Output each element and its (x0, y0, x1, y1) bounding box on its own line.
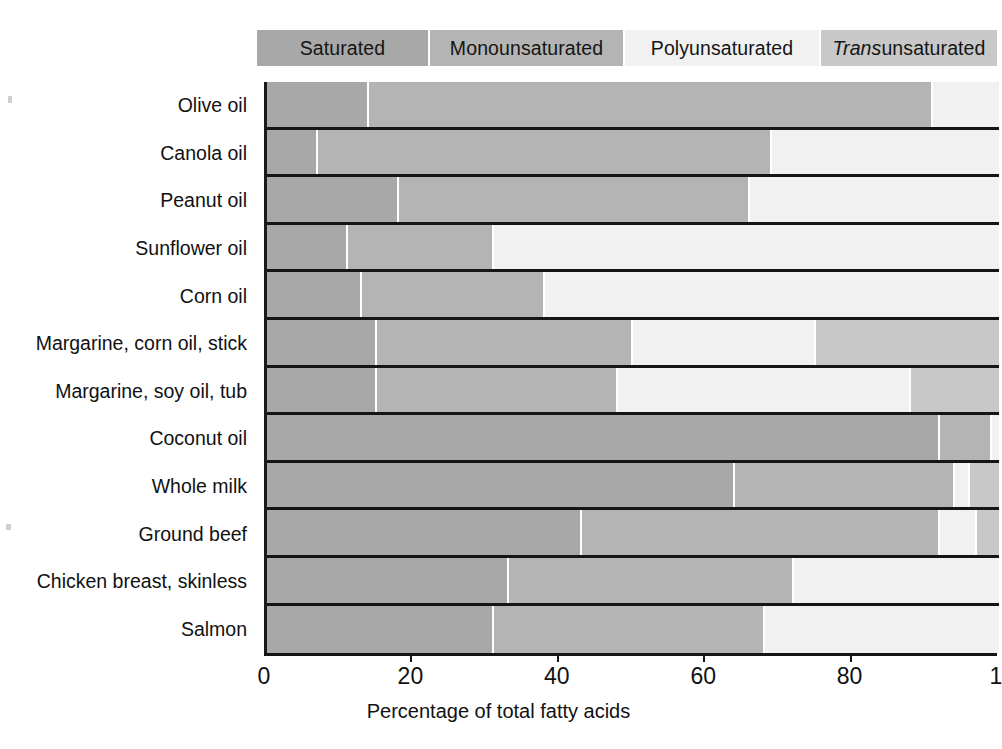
bar-segment-polyunsaturated (633, 320, 816, 365)
category-label-9: Whole milk (0, 463, 256, 511)
bar-segment-saturated (267, 558, 509, 603)
bar-segment-polyunsaturated (494, 225, 999, 270)
x-tick-60 (703, 653, 705, 662)
bar-segment-monounsaturated (735, 463, 955, 508)
chart-legend: SaturatedMonounsaturatedPolyunsaturatedT… (257, 30, 997, 66)
bar-row (267, 177, 999, 225)
bar-segment-polyunsaturated (940, 510, 977, 555)
category-label-11: Chicken breast, skinless (0, 558, 256, 606)
bar-row (267, 463, 999, 511)
bar-row (267, 558, 999, 606)
legend-label-rest: unsaturated (881, 37, 985, 60)
x-tick-80 (850, 653, 852, 662)
x-tick-label-80: 80 (837, 663, 863, 690)
bar-segment-polyunsaturated (955, 463, 970, 508)
bar-segment-saturated (267, 510, 582, 555)
bar-segment-polyunsaturated (750, 177, 999, 222)
legend-label-italic: Trans (832, 37, 881, 60)
bar-segment-monounsaturated (362, 272, 545, 317)
bar-segment-saturated (267, 415, 940, 460)
bar-row (267, 606, 999, 654)
x-tick-20 (410, 653, 412, 662)
category-label-12: Salmon (0, 606, 256, 654)
category-label-5: Corn oil (0, 272, 256, 320)
bar-segment-monounsaturated (377, 320, 633, 365)
x-tick-label-20: 20 (398, 663, 424, 690)
bar-segment-monounsaturated (509, 558, 794, 603)
bar-segment-trans (970, 463, 999, 508)
legend-label: Saturated (300, 37, 385, 60)
x-axis-title: Percentage of total fatty acids (0, 700, 997, 723)
category-label-4: Sunflower oil (0, 225, 256, 273)
bar-row (267, 510, 999, 558)
legend-item-1: Saturated (257, 30, 430, 66)
bar-row (267, 225, 999, 273)
bar-row (267, 82, 999, 130)
category-label-8: Coconut oil (0, 415, 256, 463)
category-label-6: Margarine, corn oil, stick (0, 320, 256, 368)
bar-segment-polyunsaturated (992, 415, 999, 460)
legend-label: Monounsaturated (450, 37, 603, 60)
x-tick-label-40: 40 (544, 663, 570, 690)
category-axis-labels: Olive oilCanola oilPeanut oilSunflower o… (0, 82, 256, 653)
bar-segment-saturated (267, 463, 735, 508)
bar-segment-monounsaturated (940, 415, 991, 460)
plot-area (264, 82, 999, 653)
bar-segment-polyunsaturated (545, 272, 999, 317)
bar-segment-monounsaturated (348, 225, 494, 270)
bar-segment-saturated (267, 320, 377, 365)
bar-segment-monounsaturated (494, 606, 765, 654)
x-tick-label-1: 1 (990, 663, 1002, 690)
x-axis-line (264, 653, 997, 656)
bar-segment-monounsaturated (399, 177, 750, 222)
x-tick-label-0: 0 (258, 663, 271, 690)
bar-segment-trans (977, 510, 999, 555)
legend-item-3: Polyunsaturated (625, 30, 821, 66)
bar-row (267, 272, 999, 320)
bar-segment-monounsaturated (318, 130, 772, 175)
legend-label: Polyunsaturated (651, 37, 793, 60)
bar-segment-saturated (267, 606, 494, 654)
bar-segment-monounsaturated (369, 82, 933, 127)
bar-segment-saturated (267, 82, 369, 127)
bar-row (267, 415, 999, 463)
bar-segment-saturated (267, 368, 377, 413)
bar-row (267, 368, 999, 416)
bar-segment-trans (816, 320, 999, 365)
bar-segment-saturated (267, 225, 348, 270)
bar-segment-trans (911, 368, 999, 413)
category-label-10: Ground beef (0, 510, 256, 558)
bar-segment-polyunsaturated (772, 130, 999, 175)
legend-item-2: Monounsaturated (430, 30, 625, 66)
bar-segment-polyunsaturated (933, 82, 999, 127)
bar-row (267, 320, 999, 368)
bar-segment-saturated (267, 130, 318, 175)
category-label-2: Canola oil (0, 130, 256, 178)
category-label-3: Peanut oil (0, 177, 256, 225)
x-tick-40 (557, 653, 559, 662)
bar-segment-monounsaturated (377, 368, 619, 413)
bar-row (267, 130, 999, 178)
category-label-7: Margarine, soy oil, tub (0, 368, 256, 416)
legend-item-4: Trans unsaturated (821, 30, 997, 66)
x-tick-label-60: 60 (690, 663, 716, 690)
bar-segment-polyunsaturated (618, 368, 911, 413)
bar-segment-monounsaturated (582, 510, 941, 555)
bar-segment-polyunsaturated (765, 606, 999, 654)
bar-segment-saturated (267, 177, 399, 222)
bar-segment-saturated (267, 272, 362, 317)
bar-segment-polyunsaturated (794, 558, 999, 603)
category-label-1: Olive oil (0, 82, 256, 130)
